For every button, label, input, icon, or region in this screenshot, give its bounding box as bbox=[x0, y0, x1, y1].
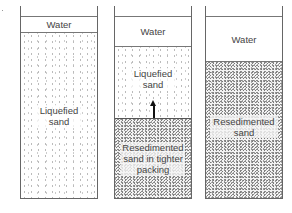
water-layer-middle: Water bbox=[115, 16, 191, 47]
column-right: Water Resedimented sand bbox=[205, 6, 283, 199]
upward-arrow-icon bbox=[153, 105, 155, 118]
speck-mark bbox=[2, 10, 3, 11]
liquefied-sand-label: Liquefied sand bbox=[130, 68, 176, 90]
column-left: Water Liquefied sand bbox=[20, 6, 98, 199]
water-layer-right: Water bbox=[206, 16, 282, 62]
water-label: Water bbox=[141, 26, 166, 37]
resedimented-sand-label: Resedimented sand in tighter packing bbox=[121, 142, 185, 175]
liquefied-sand-layer-left: Liquefied sand bbox=[21, 33, 97, 198]
column-middle: Water Liquefied sand Resedimented sand i… bbox=[114, 6, 192, 199]
water-layer-left: Water bbox=[21, 16, 97, 33]
resedimented-sand-label: Resedimented sand bbox=[210, 116, 278, 138]
water-label: Water bbox=[232, 34, 257, 45]
water-label: Water bbox=[47, 19, 72, 30]
resedimented-sand-layer-middle: Resedimented sand in tighter packing bbox=[115, 118, 191, 198]
liquefied-sand-label: Liquefied sand bbox=[36, 105, 82, 127]
resedimented-sand-layer-right: Resedimented sand bbox=[206, 62, 282, 198]
